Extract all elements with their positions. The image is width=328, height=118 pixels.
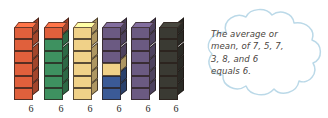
unit-cube bbox=[73, 88, 92, 100]
unit-cube bbox=[159, 76, 178, 88]
unit-cube bbox=[73, 27, 92, 39]
unit-cube bbox=[159, 51, 178, 63]
cube-front-face bbox=[102, 39, 121, 51]
cube-side-face bbox=[121, 79, 127, 96]
tower-6-label: 6 bbox=[164, 104, 189, 114]
cube-front-face bbox=[159, 63, 178, 75]
cube-front-face bbox=[44, 27, 63, 39]
tower-3: 6 bbox=[73, 27, 105, 114]
cube-front-face bbox=[131, 63, 150, 75]
cube-front-face bbox=[73, 76, 92, 88]
unit-cube bbox=[73, 39, 92, 51]
thought-cloud-text: The average or mean, of 7, 5, 7, 3, 8, a… bbox=[211, 28, 311, 78]
cube-front-face bbox=[44, 63, 63, 75]
unit-cube bbox=[131, 51, 150, 63]
diagram-canvas: 666666 The average or mean, of 7, 5, 7, … bbox=[0, 0, 328, 118]
cube-side-face bbox=[63, 79, 69, 96]
tower-2-stack bbox=[44, 27, 76, 100]
unit-cube bbox=[44, 39, 63, 51]
cube-front-face bbox=[131, 39, 150, 51]
unit-cube bbox=[102, 76, 121, 88]
unit-cube bbox=[159, 27, 178, 39]
tower-6-stack bbox=[159, 27, 191, 100]
unit-cube bbox=[131, 63, 150, 75]
unit-cube bbox=[73, 63, 92, 75]
cube-front-face bbox=[73, 88, 92, 100]
unit-cube bbox=[131, 88, 150, 100]
cube-front-face bbox=[159, 27, 178, 39]
cube-front-face bbox=[44, 51, 63, 63]
tower-1-label: 6 bbox=[19, 104, 44, 114]
unit-cube bbox=[159, 88, 178, 100]
tower-4-label: 6 bbox=[107, 104, 132, 114]
unit-cube bbox=[14, 76, 33, 88]
tower-5-label: 6 bbox=[136, 104, 161, 114]
cube-front-face bbox=[73, 51, 92, 63]
unit-cube bbox=[102, 63, 121, 75]
cube-front-face bbox=[159, 88, 178, 100]
unit-cube bbox=[14, 88, 33, 100]
tower-3-stack bbox=[73, 27, 105, 100]
unit-cube bbox=[44, 88, 63, 100]
unit-cube bbox=[131, 39, 150, 51]
unit-cube bbox=[102, 88, 121, 100]
cube-towers-group: 666666 bbox=[0, 0, 195, 118]
unit-cube bbox=[14, 39, 33, 51]
cube-front-face bbox=[102, 88, 121, 100]
unit-cube bbox=[73, 51, 92, 63]
unit-cube bbox=[73, 76, 92, 88]
cube-front-face bbox=[102, 63, 121, 75]
cloud-line-2: mean, of 7, 5, 7, bbox=[211, 40, 311, 52]
cube-front-face bbox=[159, 39, 178, 51]
cloud-line-3: 3, 8, and 6 bbox=[211, 53, 311, 65]
unit-cube bbox=[159, 63, 178, 75]
cloud-line-1: The average or bbox=[211, 28, 311, 40]
cube-front-face bbox=[159, 51, 178, 63]
unit-cube bbox=[102, 39, 121, 51]
cube-front-face bbox=[14, 76, 33, 88]
thought-cloud: The average or mean, of 7, 5, 7, 3, 8, a… bbox=[196, 6, 326, 106]
cube-front-face bbox=[131, 76, 150, 88]
cube-side-face bbox=[150, 79, 156, 96]
cube-front-face bbox=[14, 27, 33, 39]
unit-cube bbox=[44, 63, 63, 75]
unit-cube bbox=[14, 51, 33, 63]
cube-front-face bbox=[44, 88, 63, 100]
unit-cube bbox=[102, 51, 121, 63]
cube-front-face bbox=[14, 88, 33, 100]
cube-front-face bbox=[73, 63, 92, 75]
cube-front-face bbox=[131, 51, 150, 63]
cube-front-face bbox=[102, 76, 121, 88]
cube-front-face bbox=[44, 39, 63, 51]
unit-cube bbox=[131, 27, 150, 39]
cube-side-face bbox=[33, 79, 39, 96]
unit-cube bbox=[44, 76, 63, 88]
cube-front-face bbox=[73, 27, 92, 39]
unit-cube bbox=[159, 39, 178, 51]
cube-front-face bbox=[73, 39, 92, 51]
unit-cube bbox=[131, 76, 150, 88]
tower-1: 6 bbox=[14, 27, 46, 114]
unit-cube bbox=[14, 63, 33, 75]
cube-side-face bbox=[92, 79, 98, 96]
unit-cube bbox=[102, 27, 121, 39]
cube-front-face bbox=[44, 76, 63, 88]
tower-6: 6 bbox=[159, 27, 191, 114]
cube-front-face bbox=[159, 76, 178, 88]
cube-front-face bbox=[131, 27, 150, 39]
cube-front-face bbox=[14, 51, 33, 63]
unit-cube bbox=[44, 51, 63, 63]
tower-1-stack bbox=[14, 27, 46, 100]
tower-3-label: 6 bbox=[78, 104, 103, 114]
cube-side-face bbox=[178, 79, 184, 96]
unit-cube bbox=[44, 27, 63, 39]
tower-2-label: 6 bbox=[49, 104, 74, 114]
tower-4: 6 bbox=[102, 27, 134, 114]
cube-front-face bbox=[14, 63, 33, 75]
cube-front-face bbox=[14, 39, 33, 51]
unit-cube bbox=[14, 27, 33, 39]
cube-front-face bbox=[131, 88, 150, 100]
cube-front-face bbox=[102, 51, 121, 63]
cube-front-face bbox=[102, 27, 121, 39]
tower-2: 6 bbox=[44, 27, 76, 114]
